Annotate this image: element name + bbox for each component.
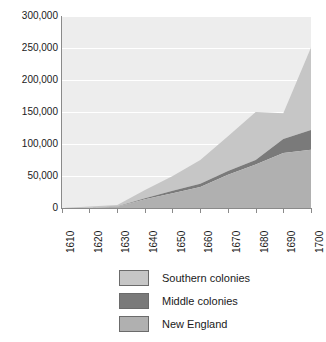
legend-item-middle-colonies: Middle colonies xyxy=(119,291,309,310)
x-tick-label-1660: 1660 xyxy=(204,231,214,253)
legend-label-middle-colonies: Middle colonies xyxy=(162,295,238,307)
x-tick-label-1670: 1670 xyxy=(232,231,242,253)
x-tick-label-1680: 1680 xyxy=(260,231,270,253)
legend-item-new-england: New England xyxy=(119,314,309,333)
x-tick-label-1610: 1610 xyxy=(66,231,76,253)
x-tick-label-1690: 1690 xyxy=(287,231,297,253)
chart-legend: Southern colonies Middle colonies New En… xyxy=(119,268,309,337)
legend-swatch-southern-colonies xyxy=(119,270,149,286)
legend-swatch-new-england xyxy=(119,316,149,332)
stacked-area-chart: 300,000 250,000 200,000 150,000 100,000 … xyxy=(0,0,326,342)
legend-label-southern-colonies: Southern colonies xyxy=(162,272,250,284)
x-tick-label-1700: 1700 xyxy=(315,231,325,253)
legend-label-new-england: New England xyxy=(162,318,227,330)
x-tick-label-1630: 1630 xyxy=(121,231,131,253)
legend-swatch-middle-colonies xyxy=(119,293,149,309)
x-tick-label-1620: 1620 xyxy=(94,231,104,253)
x-tick-label-1650: 1650 xyxy=(177,231,187,253)
x-tick-label-1640: 1640 xyxy=(149,231,159,253)
legend-item-southern-colonies: Southern colonies xyxy=(119,268,309,287)
